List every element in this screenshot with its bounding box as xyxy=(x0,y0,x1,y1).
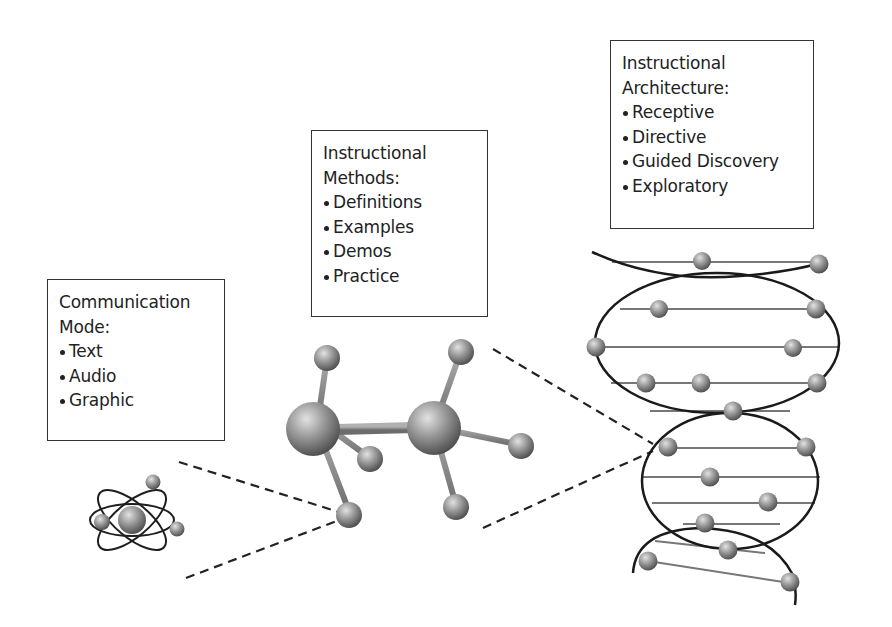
box-title-line2: Methods: xyxy=(323,166,477,191)
list-item: Demos xyxy=(323,239,477,264)
box-title-line1: Communication xyxy=(59,290,214,315)
box-title-line2: Mode: xyxy=(59,315,214,340)
list-item: Directive xyxy=(622,125,803,150)
list-item: Guided Discovery xyxy=(622,149,803,174)
box-title-line1: Instructional xyxy=(323,141,477,166)
list-item: Examples xyxy=(323,215,477,240)
instructional-methods-list: Definitions Examples Demos Practice xyxy=(323,190,477,288)
instructional-methods-box: Instructional Methods: Definitions Examp… xyxy=(311,130,488,317)
box-title-line2: Architecture: xyxy=(622,76,803,101)
list-item: Text xyxy=(59,339,214,364)
list-item: Receptive xyxy=(622,100,803,125)
atom-icon xyxy=(89,475,185,561)
list-item: Practice xyxy=(323,264,477,289)
box-title-line1: Instructional xyxy=(622,51,803,76)
communication-mode-box: Communication Mode: Text Audio Graphic xyxy=(47,279,225,441)
dna-helix-icon xyxy=(587,252,840,605)
instructional-architecture-list: Receptive Directive Guided Discovery Exp… xyxy=(622,100,803,198)
list-item: Audio xyxy=(59,364,214,389)
instructional-architecture-box: Instructional Architecture: Receptive Di… xyxy=(610,40,814,229)
connector-lines xyxy=(179,349,653,578)
molecule-icon xyxy=(286,339,534,528)
list-item: Exploratory xyxy=(622,174,803,199)
communication-mode-list: Text Audio Graphic xyxy=(59,339,214,413)
list-item: Graphic xyxy=(59,388,214,413)
list-item: Definitions xyxy=(323,190,477,215)
